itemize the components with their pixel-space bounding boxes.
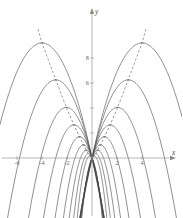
x-axis-label: x [171,149,176,157]
parabola-curve [3,80,109,218]
y-tick-label: 8 [86,54,89,61]
parabola-curve [61,145,105,218]
parabola-curve [79,154,112,218]
tick-marks-layer [17,58,142,160]
parabola-curve [78,145,122,218]
plot-canvas: -6-4-22468 x y [0,0,182,218]
parabola-curve [78,43,183,218]
x-tick-label: 4 [140,159,143,166]
x-tick-label: -6 [14,159,19,166]
curves-layer [0,43,182,218]
x-tick-label: -4 [39,159,44,166]
parabola-curve [75,80,181,218]
figure-root: -6-4-22468 x y [0,0,182,218]
y-tick-label: 6 [86,79,89,86]
parabola-curve [72,154,105,218]
axes-layer [2,8,176,216]
x-tick-label: -2 [64,159,69,166]
y-axis-arrow-icon [90,8,94,14]
parabola-curve [0,43,107,218]
x-tick-label: 2 [115,159,118,166]
y-axis-label: y [94,8,99,16]
